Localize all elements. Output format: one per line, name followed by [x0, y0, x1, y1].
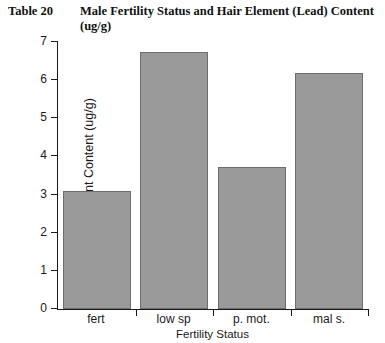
y-axis-tick: 2: [51, 232, 58, 233]
chart-title: Male Fertility Status and Hair Element (…: [80, 4, 380, 34]
y-axis-tick-label: 1: [40, 262, 47, 278]
bar-fert: [63, 191, 131, 309]
y-axis-tick-label: 7: [40, 33, 47, 49]
y-axis-tick-label: 2: [40, 224, 47, 240]
bar-low-sp: [140, 52, 208, 309]
y-axis-tick-label: 6: [40, 71, 47, 87]
figure-container: Table 20 Male Fertility Status and Hair …: [0, 0, 385, 343]
bar-p-mot: [218, 167, 286, 309]
y-axis-tick: 0: [51, 308, 58, 309]
y-axis-tick: 6: [51, 79, 58, 80]
y-axis-tick: 4: [51, 155, 58, 156]
x-axis-tick-labels: fertlow spp. mot.mal s.: [57, 312, 368, 326]
x-axis-tick: [368, 309, 369, 316]
y-axis-tick: 3: [51, 194, 58, 195]
x-axis-tick-label: p. mot.: [213, 312, 291, 326]
bar-mal-s: [295, 73, 363, 309]
y-axis-tick: 1: [51, 270, 58, 271]
x-axis-label: Fertility Status: [57, 328, 368, 340]
figure-title-row: Table 20 Male Fertility Status and Hair …: [0, 4, 385, 38]
bar-series: [58, 42, 368, 309]
bar-slot: [58, 42, 136, 309]
y-axis-tick-label: 3: [40, 186, 47, 202]
x-axis-tick-label: low sp: [135, 312, 213, 326]
bar-slot: [136, 42, 214, 309]
y-axis-tick-label: 0: [40, 300, 47, 316]
y-axis-tick-label: 4: [40, 147, 47, 163]
table-number-label: Table 20: [8, 4, 53, 19]
bar-slot: [213, 42, 291, 309]
x-axis-tick-label: mal s.: [290, 312, 368, 326]
bar-slot: [291, 42, 369, 309]
x-axis-tick-label: fert: [57, 312, 135, 326]
y-axis-tick: 7: [51, 41, 58, 42]
y-axis-tick: 5: [51, 117, 58, 118]
plot-area: Hair Element Content (ug/g) 01234567: [57, 42, 368, 310]
y-axis-tick-label: 5: [40, 109, 47, 125]
